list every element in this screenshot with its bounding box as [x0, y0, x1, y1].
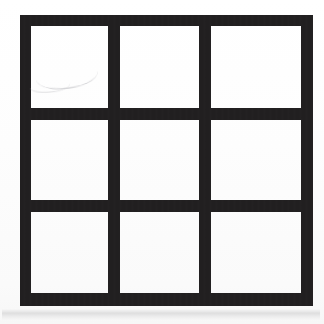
- grid-cell-r2c2[interactable]: [120, 120, 199, 200]
- grid-cell-r1c2[interactable]: [120, 26, 199, 108]
- grid-cell-r3c3[interactable]: [211, 212, 301, 293]
- three-by-three-grid: [20, 15, 313, 306]
- grid-vertical-divider-1: [108, 15, 120, 306]
- grid-cell-r2c3[interactable]: [211, 120, 301, 200]
- grid-horizontal-divider-2: [20, 200, 313, 212]
- image-canvas: [0, 0, 324, 324]
- grid-cell-r3c1[interactable]: [31, 212, 108, 293]
- drop-shadow-artifact: [2, 309, 320, 320]
- grid-horizontal-divider-1: [20, 108, 313, 120]
- grid-vertical-divider-2: [199, 15, 211, 306]
- grid-cell-r2c1[interactable]: [31, 120, 108, 200]
- grid-cell-r3c2[interactable]: [120, 212, 199, 293]
- grid-cell-r1c3[interactable]: [211, 26, 301, 108]
